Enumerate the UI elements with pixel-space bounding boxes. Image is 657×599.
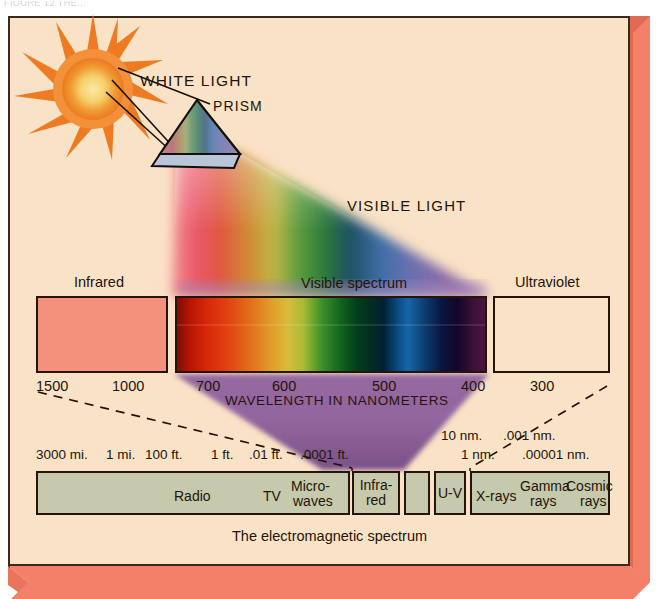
wavelength-tick-600: 600 [272,378,296,394]
em-scale-label: .001 nm. [503,428,556,443]
label-white-light: WHITE LIGHT [140,72,252,90]
em-band-visible [404,471,430,515]
em-scale-label: 3000 mi. [36,447,88,462]
swatch-label-visible-spectrum: Visible spectrum [301,275,407,291]
em-band-label: Radio [174,489,211,504]
swatch-infrared [36,296,168,373]
em-band-label: TV [263,489,281,504]
em-band-label: rays [580,494,606,509]
em-scale-label: 10 nm. [441,428,482,443]
axis-title-wavelength: WAVELENGTH IN NANOMETERS [225,393,449,408]
em-band-label: rays [530,494,556,509]
wavelength-tick-1000: 1000 [112,378,144,394]
spectrum-sheen [177,324,485,326]
figure-canvas: FIGURE 12 THE... [0,0,657,599]
swatch-label-infrared: Infrared [74,274,124,290]
swatch-visible-spectrum [175,296,487,373]
swatch-ultraviolet [493,296,610,373]
spectrum-gradient [177,298,485,371]
em-band-xrays-gamma-cosmic: X-raysGammaraysCosmicrays [470,471,610,515]
em-scale-label: .01 ft. [249,447,283,462]
em-band-label: Cosmic [566,479,613,494]
em-band-label: Micro- [291,479,330,494]
em-scale-label: 1 mi. [106,447,135,462]
wavelength-tick-700: 700 [196,378,220,394]
em-band-ultraviolet: U-V [434,471,466,515]
em-band-label: waves [293,494,333,509]
label-visible-light: VISIBLE LIGHT [347,197,466,214]
wavelength-tick-1500: 1500 [36,378,68,394]
figure-caption: The electromagnetic spectrum [232,528,427,544]
em-scale-label: 100 ft. [145,447,183,462]
wavelength-tick-300: 300 [530,378,554,394]
em-scale-label: .0001 ft. [300,447,349,462]
label-prism: PRISM [213,98,263,114]
em-band-label: Gamma [520,479,570,494]
wavelength-tick-500: 500 [372,378,396,394]
em-band-infrared-line1: Infra- [354,478,398,493]
em-band-infrared-line2: red [354,493,398,508]
em-scale-label: 1 nm. [461,447,495,462]
em-band-radio-tv-microwaves: RadioTVMicro-waves [36,471,350,515]
em-scale-label: .00001 nm. [522,447,590,462]
em-band-uv-label: U-V [436,486,464,501]
em-band-infrared: Infra- red [352,471,400,515]
em-band-label: X-rays [476,489,516,504]
wavelength-tick-400: 400 [461,378,485,394]
swatch-label-ultraviolet: Ultraviolet [515,274,579,290]
em-scale-label: 1 ft. [211,447,234,462]
